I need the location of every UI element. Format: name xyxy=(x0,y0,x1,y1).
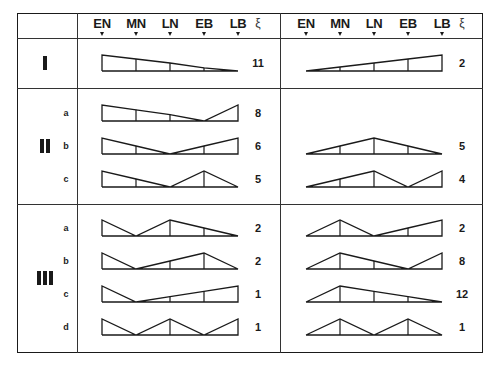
profile-outline xyxy=(102,138,238,154)
profile-outline xyxy=(306,319,442,335)
left-profile-IIa xyxy=(102,105,238,121)
left-profile-IIc xyxy=(102,171,238,187)
profile-outline xyxy=(306,220,442,236)
profile-outline xyxy=(102,171,238,187)
right-profile-IIIc xyxy=(306,286,442,302)
right-profile-IIIa xyxy=(306,220,442,236)
right-profile-IIId xyxy=(306,319,442,335)
left-profile-IIIb xyxy=(102,253,238,269)
right-profile-IIIb xyxy=(306,253,442,269)
left-profile-IIb xyxy=(102,138,238,154)
left-profile-IIId xyxy=(102,319,238,335)
left-profile-IIIc xyxy=(102,286,238,302)
right-profile-I xyxy=(306,55,442,71)
right-profile-IIc xyxy=(306,171,442,187)
profile-shapes xyxy=(0,0,496,366)
left-profile-IIIa xyxy=(102,220,238,236)
right-profile-IIb xyxy=(306,138,442,154)
left-profile-I xyxy=(102,55,238,71)
